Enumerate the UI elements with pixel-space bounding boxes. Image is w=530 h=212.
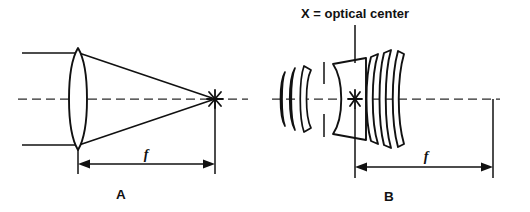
optical-center-annotation-label: X = optical center bbox=[301, 6, 409, 21]
optics-diagram-canvas: f A bbox=[0, 0, 530, 212]
panel-a-lens-element bbox=[69, 48, 87, 150]
panel-b-group: X = optical center f B bbox=[272, 6, 500, 204]
panel-a-converging-ray-top bbox=[79, 53, 215, 99]
optics-figure: f A bbox=[0, 0, 530, 212]
panel-b-focal-length-label: f bbox=[424, 149, 430, 164]
panel-b-dimension-arrow-right bbox=[481, 163, 493, 172]
panel-b-caption: B bbox=[384, 189, 394, 204]
panel-b-optical-center-x-marker bbox=[348, 90, 362, 108]
panel-a-caption: A bbox=[116, 187, 126, 202]
panel-b-dimension-arrow-left bbox=[355, 163, 367, 172]
panel-a-converging-ray-bottom bbox=[79, 99, 215, 145]
panel-a-dimension-arrow-left bbox=[78, 160, 90, 169]
panel-a-group: f A bbox=[18, 48, 248, 202]
panel-b-front-element-1 bbox=[281, 72, 286, 126]
panel-a-focal-length-label: f bbox=[144, 147, 150, 162]
panel-b-front-element-3 bbox=[300, 66, 311, 132]
panel-a-dimension-arrow-right bbox=[203, 160, 215, 169]
